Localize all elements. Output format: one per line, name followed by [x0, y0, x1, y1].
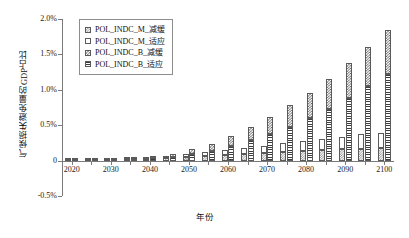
bar-segment [170, 157, 176, 161]
y-tick-label: 1.0% [40, 86, 57, 94]
x-tick [384, 161, 385, 165]
legend-label: POL_INDC_M_适应 [95, 37, 165, 46]
bar-segment [248, 127, 254, 140]
bar-segment [365, 86, 371, 160]
legend-label: POL_INDC_B_减缓 [95, 48, 163, 57]
bar-segment [385, 74, 391, 161]
bar-segment [378, 148, 384, 161]
bar-segment [300, 151, 306, 161]
bar-segment [385, 30, 391, 74]
legend-label: POL_INDC_M_减缓 [95, 25, 165, 34]
chart-figure: 气候损失避免量的GDP占比 年份 2.0%1.5%1.0%0.5%0-0.5% … [0, 0, 409, 238]
bar-segment [339, 149, 345, 160]
y-tick-label: 1.5% [40, 50, 57, 58]
legend-swatch [85, 27, 91, 33]
bar-segment [170, 154, 176, 157]
bar-segment [189, 149, 195, 154]
bar-segment [209, 144, 215, 151]
bar-segment [346, 98, 352, 160]
y-tick [58, 161, 62, 162]
bar-segment [228, 136, 234, 146]
bar-segment [163, 158, 169, 160]
x-tick [365, 161, 366, 165]
y-tick-label: 0 [53, 157, 57, 165]
x-tick-label: 2020 [64, 165, 80, 174]
x-tick [189, 161, 190, 165]
bar-segment [378, 133, 384, 148]
x-tick [130, 161, 131, 165]
bar-segment [287, 105, 293, 126]
y-axis-title: 气候损失避免量的GDP占比 [19, 50, 31, 157]
x-tick [306, 161, 307, 165]
bar-segment [143, 157, 149, 159]
bar-segment [104, 158, 110, 160]
legend-swatch [85, 61, 91, 67]
bar-segment [358, 134, 364, 148]
x-tick-label: 2090 [337, 165, 353, 174]
bar-segment [326, 79, 332, 109]
y-tick-label: 2.0% [40, 15, 57, 23]
bar-segment [261, 146, 267, 153]
x-tick [228, 161, 229, 165]
bar-segment [307, 118, 313, 160]
bar-segment [339, 137, 345, 150]
legend-label: POL_INDC_B_适应 [95, 60, 163, 69]
y-tick [58, 196, 62, 197]
bar-segment [319, 139, 325, 150]
x-tick [326, 161, 327, 165]
bar-segment [209, 151, 215, 161]
x-tick [345, 161, 346, 165]
chart-legend: POL_INDC_M_减缓POL_INDC_M_适应POL_INDC_B_减缓P… [79, 19, 173, 75]
bar-segment [189, 154, 195, 160]
legend-item: POL_INDC_M_减缓 [85, 24, 165, 36]
bar-segment [280, 143, 286, 151]
x-tick-label: 2040 [142, 165, 158, 174]
bar-segment [143, 159, 149, 161]
bar-segment [124, 157, 130, 159]
x-tick-label: 2070 [259, 165, 275, 174]
x-tick [287, 161, 288, 165]
bar-segment [202, 152, 208, 156]
bar-segment [163, 156, 169, 158]
bar-segment [300, 141, 306, 151]
x-tick [267, 161, 268, 165]
bar-segment [307, 93, 313, 118]
x-tick-label: 2050 [181, 165, 197, 174]
bar-segment [85, 158, 91, 160]
bar-segment [365, 47, 371, 87]
x-tick [72, 161, 73, 165]
bar-segment [326, 109, 332, 161]
x-tick [111, 161, 112, 165]
y-tick-label: 0.5% [40, 121, 57, 129]
bar-segment [248, 140, 254, 161]
bar-segment [241, 148, 247, 154]
bar-segment [267, 117, 273, 134]
bar-segment [228, 146, 234, 161]
x-tick [169, 161, 170, 165]
bar-segment [241, 154, 247, 161]
bar-segment [358, 149, 364, 161]
bar-segment [287, 127, 293, 161]
bar-segment [280, 152, 286, 161]
bar-segment [131, 157, 137, 159]
x-tick [208, 161, 209, 165]
y-tick [58, 54, 62, 55]
bar-segment [222, 150, 228, 155]
bar-segment [72, 158, 78, 160]
bar-segment [346, 63, 352, 98]
bar-segment [222, 155, 228, 161]
bar-segment [319, 150, 325, 161]
bar-segment [150, 158, 156, 160]
bar-segment [150, 156, 156, 158]
bar-segment [65, 158, 71, 160]
x-tick [91, 161, 92, 165]
x-tick-label: 2060 [220, 165, 236, 174]
x-tick [150, 161, 151, 165]
x-tick-label: 2030 [103, 165, 119, 174]
y-tick-label: -0.5% [38, 192, 57, 200]
legend-item: POL_INDC_B_减缓 [85, 47, 165, 59]
legend-swatch [85, 38, 91, 44]
bar-segment [111, 158, 117, 160]
x-axis-title: 年份 [0, 210, 409, 222]
bar-segment [183, 154, 189, 157]
